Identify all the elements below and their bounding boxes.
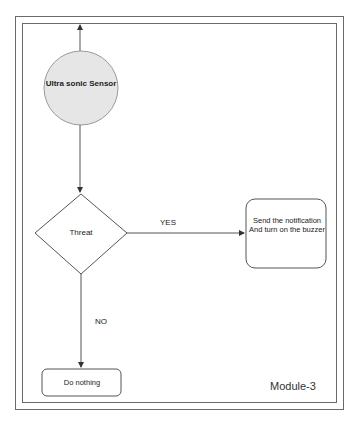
sensor-label: Ultra sonic Sensor bbox=[44, 79, 118, 89]
no-edge-label: NO bbox=[92, 317, 110, 327]
flowchart-canvas bbox=[0, 0, 357, 424]
do-nothing-label: Do nothing bbox=[42, 378, 122, 387]
yes-edge-label: YES bbox=[156, 218, 180, 228]
notify-label: Send the notification And turn on the bu… bbox=[247, 216, 327, 235]
module-label: Module-3 bbox=[270, 380, 334, 394]
threat-label: Threat bbox=[55, 228, 107, 238]
